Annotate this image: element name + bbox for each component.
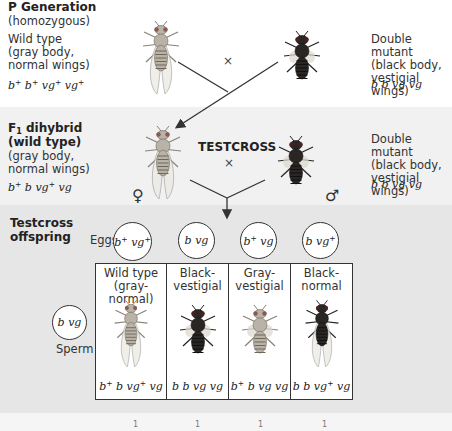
offspring-title-3: Gray- vestigial [229, 267, 290, 293]
p-generation-subtitle: (homozygous) [8, 15, 90, 28]
f1-male-fly-icon [273, 135, 319, 199]
testcross-title-line1: Testcross [10, 217, 73, 231]
p-generation-title: P Generation [8, 1, 96, 15]
f1-right-line1: Double mutant [371, 133, 452, 159]
f1-female-fly-icon [140, 125, 186, 207]
p-left-description: Wild type (gray body, normal wings) [8, 33, 90, 72]
offspring-cell-1: Wild type (gray-normal) b+ b vg+ vg [96, 264, 167, 399]
p-right-genotype: b b vg vg [371, 78, 422, 91]
f1-right-genotype: b b vg vg [371, 178, 422, 191]
offspring-cell-2: Black- vestigial b b vg vg [167, 264, 229, 399]
gray-vestigial-fly-icon [237, 304, 283, 368]
ratio-mark-3: 1 [258, 420, 263, 429]
offspring-genotype-2: b b vg vg [167, 380, 228, 393]
offspring-title-4: Black- normal [291, 267, 352, 293]
f1-title-line2: (wild type) [8, 136, 81, 150]
offspring-4-line2: normal [291, 280, 352, 293]
egg-genotype-4: b vg+ [305, 234, 335, 248]
offspring-grid: Wild type (gray-normal) b+ b vg+ vg Blac… [95, 263, 353, 400]
testcross-title-line2: offspring [10, 231, 73, 245]
sperm-circle: b vg [52, 305, 87, 340]
offspring-3-line2: vestigial [229, 280, 290, 293]
testcross-title: Testcross offspring [10, 217, 73, 244]
offspring-title-2: Black- vestigial [167, 267, 228, 293]
wild-type-fly-icon [138, 20, 184, 102]
black-normal-fly-icon [301, 298, 343, 376]
testcross-label: TESTCROSS [198, 141, 276, 155]
offspring-genotype-3: b+ b vg vg [229, 379, 290, 393]
p-right-line1: Double mutant [371, 33, 452, 59]
egg-genotype-2: b vg [185, 234, 209, 247]
ratio-mark-1: 1 [133, 420, 138, 429]
gray-normal-fly-icon [110, 298, 152, 376]
offspring-genotype-4: b b vg+ vg [291, 379, 352, 393]
offspring-2-line2: vestigial [167, 280, 228, 293]
f1-genotype: b+ b vg+ vg [8, 180, 72, 194]
egg-genotype-3: b+ vg [243, 234, 273, 248]
egg-circle-4: b vg+ [302, 222, 339, 259]
testcross-symbol: × [224, 156, 234, 170]
p-left-genotype: b+ b+ vg+ vg+ [8, 78, 84, 92]
egg-circle-3: b+ vg [240, 222, 277, 259]
cross-symbol: × [223, 54, 233, 68]
egg-circle-2: b vg [178, 222, 215, 259]
black-vestigial-fly-icon [175, 304, 221, 368]
sperm-label: Sperm [56, 343, 93, 356]
ratio-mark-4: 1 [322, 420, 327, 429]
offspring-cell-3: Gray- vestigial b+ b vg vg [229, 264, 291, 399]
p-left-line3: normal wings) [8, 59, 90, 72]
f1-line4: normal wings) [8, 163, 90, 176]
ratio-mark-2: 1 [195, 420, 200, 429]
egg-circle-1: b+ vg+ [113, 222, 152, 261]
sperm-genotype: b vg [58, 316, 82, 329]
egg-genotype-1: b+ vg+ [114, 235, 150, 249]
offspring-genotype-1: b+ b vg+ vg [96, 379, 166, 393]
female-symbol-icon: ♀ [132, 186, 144, 205]
offspring-cell-4: Black- normal b b vg+ vg [291, 264, 352, 399]
f1-description: (gray body, normal wings) [8, 150, 90, 176]
double-mutant-fly-icon [279, 30, 325, 94]
male-symbol-icon: ♂ [325, 186, 339, 205]
